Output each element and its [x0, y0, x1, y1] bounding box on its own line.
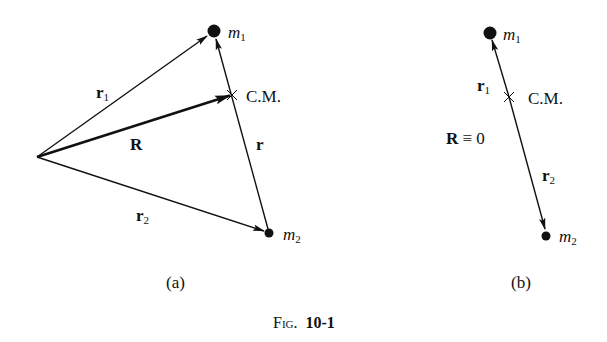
- panel-a-label: (a): [166, 273, 185, 293]
- label-m2-a: m2: [283, 226, 301, 245]
- label-R-a: R: [130, 136, 142, 153]
- label-r-a: r: [256, 136, 264, 153]
- panel-b-diagram: [484, 27, 551, 241]
- vector-r1-b: [492, 40, 509, 97]
- vector-r2-a: [37, 157, 264, 231]
- figure-caption: Fig. 10-1: [273, 314, 335, 332]
- vector-r1-a: [37, 36, 207, 157]
- label-cm-a: C.M.: [246, 88, 281, 105]
- cm-cross-icon-b: [504, 92, 514, 102]
- label-r1-b: r1: [477, 77, 490, 96]
- label-m1-a: m1: [228, 24, 246, 43]
- label-R-equiv-b: R ≡ 0: [446, 130, 485, 147]
- label-r1-a: r1: [96, 84, 109, 103]
- label-m1-b: m1: [503, 26, 521, 45]
- label-cm-b: C.M.: [528, 90, 563, 107]
- label-r2-b: r2: [542, 167, 555, 186]
- label-r2-a: r2: [136, 207, 149, 226]
- label-m2-b: m2: [559, 228, 577, 247]
- vector-r2-b: [509, 97, 545, 229]
- mass-m1-dot-a: [208, 25, 221, 38]
- vector-r-a: [216, 39, 268, 229]
- panel-b-label: (b): [511, 273, 531, 293]
- mass-m2-dot-b: [542, 232, 551, 241]
- mass-m1-dot-b: [484, 27, 497, 40]
- mass-m2-dot-a: [265, 229, 274, 238]
- panel-a-diagram: [37, 25, 274, 238]
